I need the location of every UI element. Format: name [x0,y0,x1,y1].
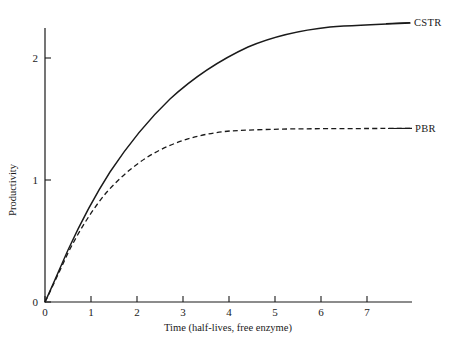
y-tick-label-1: 1 [33,174,39,186]
x-tick-label-2: 2 [134,306,140,318]
productivity-vs-time-chart: 0 1 2 3 4 5 6 7 0 1 2 Time (half-lives, … [0,0,453,342]
y-axis-title: Productivity [7,163,18,216]
x-tick-label-0: 0 [42,306,48,318]
x-tick-label-6: 6 [318,306,324,318]
chart-background [0,0,453,342]
x-tick-label-7: 7 [364,306,370,318]
x-axis-title: Time (half-lives, free enzyme) [164,322,292,334]
x-tick-label-1: 1 [88,306,94,318]
series-label-cstr: CSTR [414,17,441,28]
x-tick-label-5: 5 [272,306,278,318]
x-tick-label-3: 3 [180,306,186,318]
chart-figure: 0 1 2 3 4 5 6 7 0 1 2 Time (half-lives, … [0,0,453,342]
y-tick-label-2: 2 [33,52,39,64]
y-tick-label-0: 0 [33,296,39,308]
series-label-pbr: PBR [415,123,436,134]
x-tick-label-4: 4 [226,306,232,318]
